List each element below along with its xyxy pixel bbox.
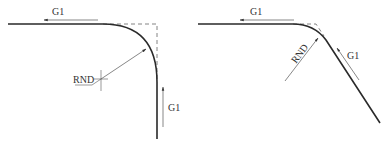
left-dashed-corner <box>103 24 157 82</box>
right-rnd-label: RND <box>289 42 310 65</box>
left-top-g1-label: G1 <box>52 6 64 17</box>
right-side-g1-label: G1 <box>347 50 359 61</box>
diagram-canvas: G1 RND G1 G1 RND G1 <box>0 0 388 143</box>
left-corner-diagram: G1 RND G1 <box>8 6 180 139</box>
right-corner-diagram: G1 RND G1 <box>198 6 380 123</box>
left-rnd-label: RND <box>73 74 94 85</box>
left-side-g1-label: G1 <box>168 102 180 113</box>
left-rnd-leader <box>101 49 146 79</box>
right-top-g1-label: G1 <box>250 6 262 17</box>
right-contour-path <box>198 24 380 123</box>
